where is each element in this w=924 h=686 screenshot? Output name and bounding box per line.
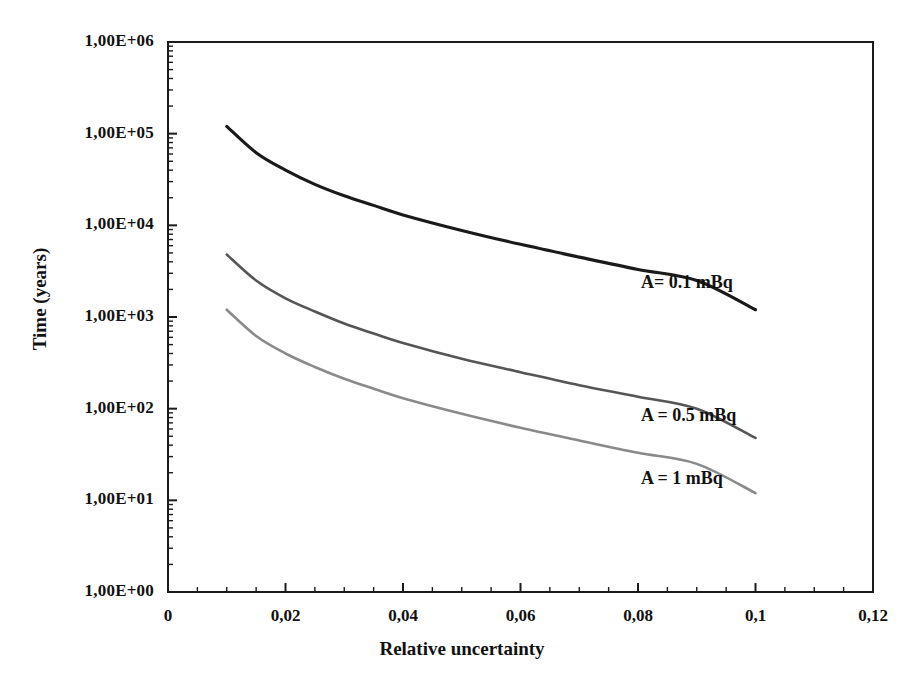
data-series [227,126,756,493]
y-tick-label: 1,00E+05 [0,123,154,143]
y-tick-label: 1,00E+03 [0,306,154,326]
series-line-2 [227,310,756,493]
series-annotation-c: A = 1 mBq [641,468,723,489]
x-tick-label: 0,04 [358,606,448,626]
chart-figure: 1,00E+061,00E+051,00E+041,00E+031,00E+02… [0,0,924,686]
y-tick-label: 1,00E+00 [0,581,154,601]
x-tick-label: 0,08 [593,606,683,626]
y-tick-label: 1,00E+01 [0,489,154,509]
series-annotation-a: A= 0.1 mBq [641,272,733,293]
x-tick-label: 0,1 [711,606,801,626]
x-tick-label: 0,06 [476,606,566,626]
x-tick-label: 0 [123,606,213,626]
x-tick-label: 0,02 [241,606,331,626]
y-tick-label: 1,00E+06 [0,31,154,51]
axis-ticks [168,42,873,592]
y-axis-title: Time (years) [29,199,51,399]
y-tick-label: 1,00E+02 [0,398,154,418]
y-tick-label: 1,00E+04 [0,214,154,234]
series-annotation-b: A = 0.5 mBq [641,405,736,426]
x-tick-label: 0,12 [828,606,918,626]
plot-frame [168,42,873,592]
x-axis-title: Relative uncertainty [0,638,924,660]
